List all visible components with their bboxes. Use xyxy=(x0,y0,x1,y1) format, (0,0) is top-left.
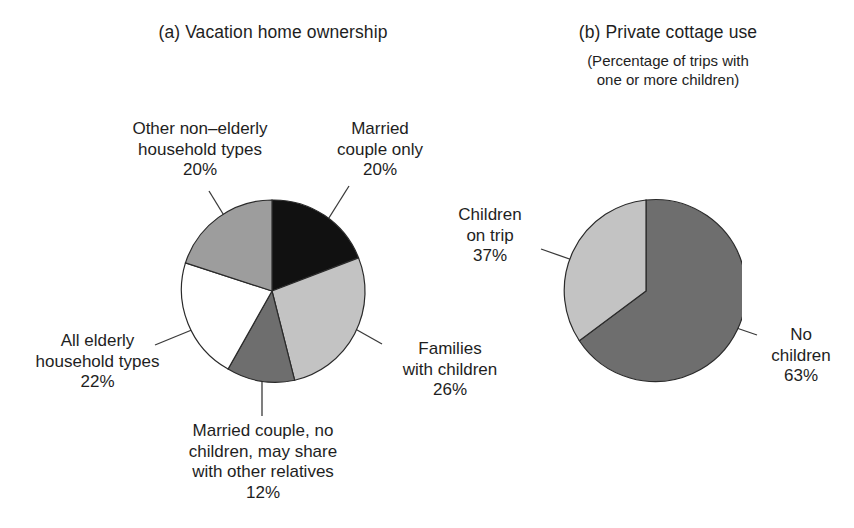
label-line: Other non–elderly xyxy=(95,119,305,140)
label-line: No xyxy=(752,325,850,346)
label-line: children xyxy=(752,346,850,367)
label-line: Married couple, no xyxy=(153,421,373,442)
label-all-elderly-household-types: All elderly household types 22% xyxy=(5,331,190,393)
label-line: couple only xyxy=(305,140,455,161)
label-line: household types xyxy=(5,352,190,373)
pie-chart-vacation-home-ownership xyxy=(178,196,368,388)
label-no-children: No children 63% xyxy=(752,325,850,387)
label-married-couple-only: Married couple only 20% xyxy=(305,119,455,181)
pie-chart-figure: (a) Vacation home ownership (b) Private … xyxy=(0,0,854,528)
label-line: children, may share xyxy=(153,442,373,463)
label-value: 22% xyxy=(5,372,190,393)
label-value: 63% xyxy=(752,366,850,387)
label-line: Children xyxy=(434,205,546,226)
label-line: with other relatives xyxy=(153,462,373,483)
label-line: household types xyxy=(95,140,305,161)
label-line: All elderly xyxy=(5,331,190,352)
label-value: 20% xyxy=(305,160,455,181)
label-line: with children xyxy=(378,360,522,381)
label-line: Families xyxy=(378,339,522,360)
label-value: 20% xyxy=(95,160,305,181)
label-value: 37% xyxy=(434,246,546,267)
label-value: 26% xyxy=(378,380,522,401)
label-married-couple-no-children: Married couple, no children, may share w… xyxy=(153,421,373,504)
label-other-non-elderly-household-types: Other non–elderly household types 20% xyxy=(95,119,305,181)
label-line: on trip xyxy=(434,226,546,247)
label-line: Married xyxy=(305,119,455,140)
label-children-on-trip: Children on trip 37% xyxy=(434,205,546,267)
label-families-with-children: Families with children 26% xyxy=(378,339,522,401)
pie-chart-private-cottage-use xyxy=(552,196,742,388)
label-value: 12% xyxy=(153,483,373,504)
